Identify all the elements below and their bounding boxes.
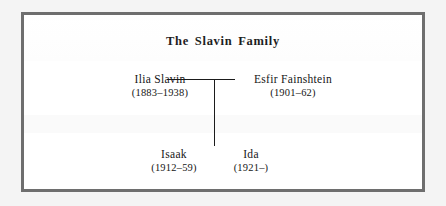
person-name: Ida	[214, 148, 288, 161]
person-node-isaak: Isaak (1912–59)	[132, 148, 216, 174]
person-name: Isaak	[132, 148, 216, 161]
family-tree-figure: The Slavin Family Ilia Slavin (1883–1938…	[21, 12, 425, 192]
descent-connector-line	[214, 79, 215, 146]
person-dates: (1912–59)	[132, 161, 216, 174]
family-tree-graph: Ilia Slavin (1883–1938) Esfir Fainshtein…	[24, 15, 422, 189]
person-node-ilia-slavin: Ilia Slavin (1883–1938)	[110, 73, 210, 99]
person-node-esfir-fainshtein: Esfir Fainshtein (1901–62)	[227, 73, 359, 99]
person-node-ida: Ida (1921–)	[214, 148, 288, 174]
person-dates: (1921–)	[214, 161, 288, 174]
person-dates: (1901–62)	[227, 86, 359, 99]
person-name: Ilia Slavin	[110, 73, 210, 86]
person-name: Esfir Fainshtein	[227, 73, 359, 86]
person-dates: (1883–1938)	[110, 86, 210, 99]
